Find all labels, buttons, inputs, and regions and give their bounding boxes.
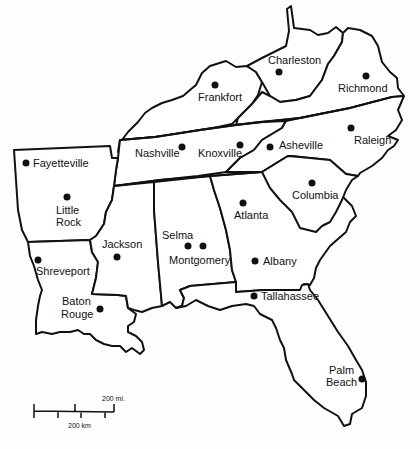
city-label: Shreveport bbox=[36, 265, 90, 277]
city-marker bbox=[309, 180, 316, 187]
city-label: Raleigh bbox=[354, 134, 391, 146]
city-marker bbox=[363, 73, 370, 80]
city-marker bbox=[200, 243, 207, 250]
state-florida bbox=[176, 282, 366, 426]
city-label: Jackson bbox=[102, 238, 142, 250]
city-label: Selma bbox=[162, 229, 194, 241]
city-label: Montgomery bbox=[169, 254, 231, 266]
scale-miles-label: 200 mi. bbox=[102, 395, 125, 402]
city-label: Nashville bbox=[135, 147, 180, 159]
city-label: Albany bbox=[263, 255, 297, 267]
city-label: Rouge bbox=[61, 308, 93, 320]
city-marker bbox=[114, 254, 121, 261]
city-marker bbox=[359, 376, 366, 383]
city-label: Columbia bbox=[292, 189, 339, 201]
city-fayetteville: Fayetteville bbox=[23, 157, 89, 169]
city-marker bbox=[251, 293, 258, 300]
city-label: Charleston bbox=[268, 54, 321, 66]
city-marker bbox=[35, 257, 42, 264]
city-marker bbox=[97, 306, 104, 313]
city-marker bbox=[348, 125, 355, 132]
city-tallahassee: Tallahassee bbox=[251, 290, 320, 302]
city-marker bbox=[240, 200, 247, 207]
city-label: Atlanta bbox=[234, 209, 269, 221]
city-label: Rock bbox=[56, 216, 82, 228]
city-marker bbox=[64, 194, 71, 201]
scale-bar-line bbox=[34, 404, 114, 418]
city-marker bbox=[276, 69, 283, 76]
city-marker bbox=[185, 243, 192, 250]
city-label: Palm bbox=[329, 364, 354, 376]
city-label: Frankfort bbox=[198, 91, 242, 103]
city-label: Baton bbox=[62, 295, 91, 307]
city-label: Knoxville bbox=[198, 147, 242, 159]
city-label: Asheville bbox=[279, 139, 323, 151]
scale-bar: 200 mi. 200 km bbox=[34, 395, 125, 429]
scale-km-label: 200 km bbox=[68, 422, 91, 429]
city-marker bbox=[212, 82, 219, 89]
southeast-us-map: Charleston Frankfort Richmond Nashville … bbox=[0, 0, 420, 449]
city-marker bbox=[267, 144, 274, 151]
city-label: Fayetteville bbox=[33, 157, 89, 169]
city-marker bbox=[252, 258, 259, 265]
city-label: Richmond bbox=[338, 82, 388, 94]
city-marker bbox=[23, 160, 30, 167]
city-label: Beach bbox=[326, 376, 357, 388]
city-label: Tallahassee bbox=[261, 290, 319, 302]
map-svg: Charleston Frankfort Richmond Nashville … bbox=[0, 0, 420, 449]
city-label: Little bbox=[56, 204, 79, 216]
